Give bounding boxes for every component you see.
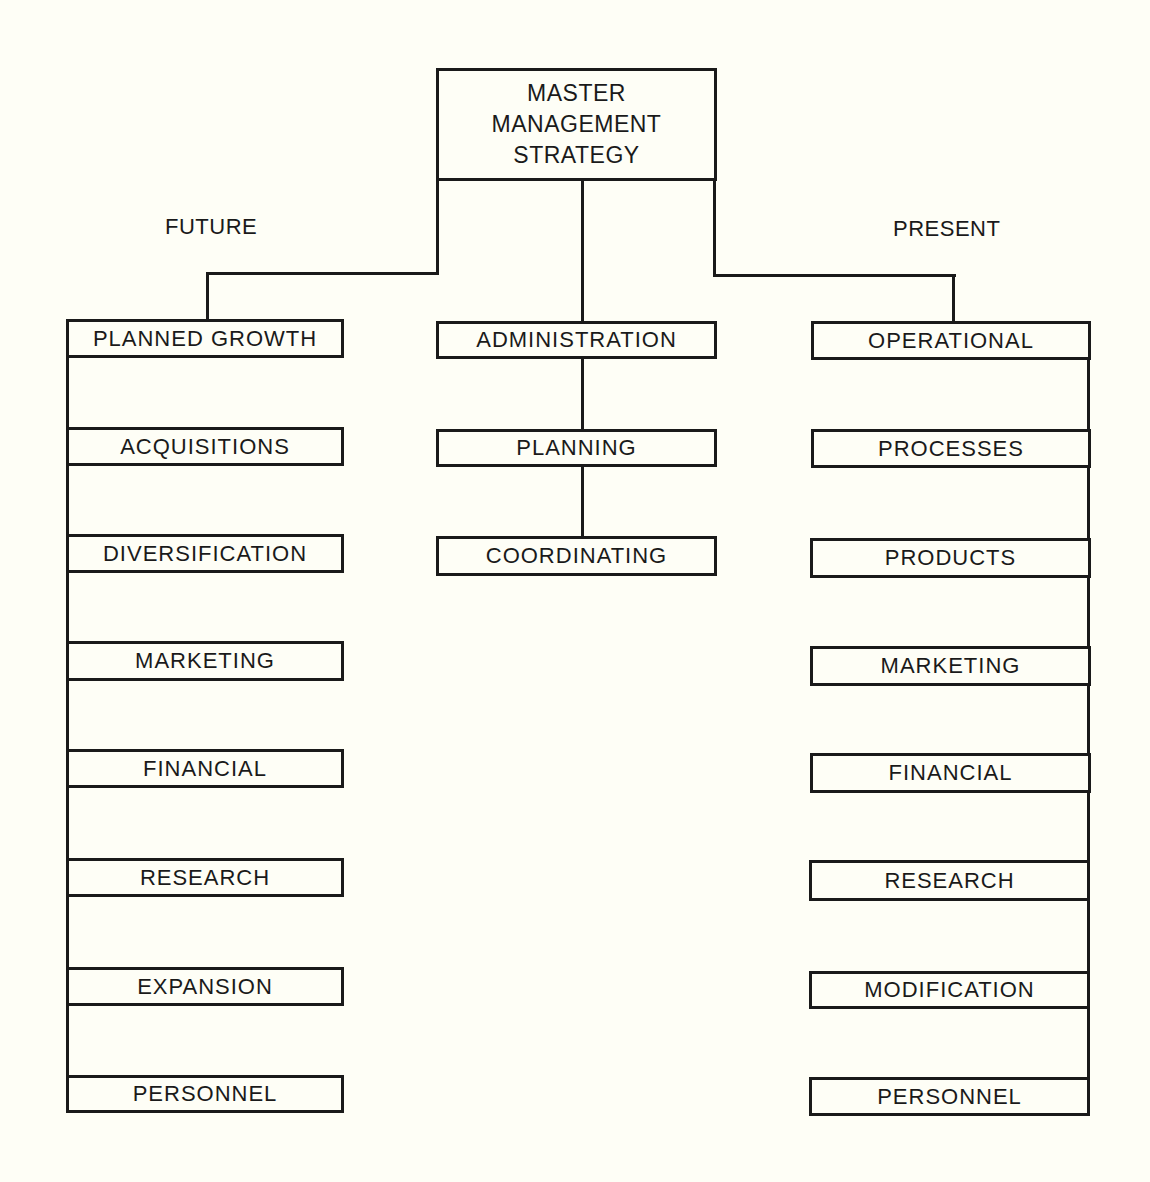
present-personnel-box: PERSONNEL — [809, 1077, 1090, 1116]
root-line-2: MANAGEMENT — [492, 109, 662, 140]
future-label: FUTURE — [165, 214, 257, 240]
left-column-drop — [206, 272, 209, 322]
present-label: PRESENT — [893, 216, 1000, 242]
root-line-3: STRATEGY — [513, 140, 639, 171]
future-expansion-box: EXPANSION — [66, 967, 344, 1006]
root-right-drop — [713, 178, 716, 277]
future-acquisitions-box: ACQUISITIONS — [66, 427, 344, 466]
left-horizontal-connector — [206, 272, 439, 275]
present-products-box: PRODUCTS — [810, 538, 1091, 578]
future-planned-growth-box: PLANNED GROWTH — [66, 319, 344, 358]
root-center-drop — [581, 178, 584, 324]
present-research-box: RESEARCH — [809, 860, 1090, 901]
future-financial-box: FINANCIAL — [66, 749, 344, 788]
center-coordinating-box: COORDINATING — [436, 536, 717, 576]
root-left-drop — [436, 178, 439, 275]
center-planning-box: PLANNING — [436, 429, 717, 467]
present-operational-box: OPERATIONAL — [811, 321, 1091, 360]
present-marketing-box: MARKETING — [810, 646, 1091, 686]
present-modification-box: MODIFICATION — [809, 971, 1090, 1009]
present-financial-box: FINANCIAL — [810, 753, 1091, 793]
root-line-1: MASTER — [527, 78, 626, 109]
future-personnel-box: PERSONNEL — [66, 1075, 344, 1113]
right-column-drop — [952, 274, 955, 324]
present-processes-box: PROCESSES — [811, 429, 1091, 468]
master-management-strategy-box: MASTER MANAGEMENT STRATEGY — [436, 68, 717, 181]
future-marketing-box: MARKETING — [66, 641, 344, 681]
right-horizontal-connector — [713, 274, 956, 277]
future-research-box: RESEARCH — [66, 858, 344, 897]
future-diversification-box: DIVERSIFICATION — [66, 534, 344, 573]
center-administration-box: ADMINISTRATION — [436, 321, 717, 359]
